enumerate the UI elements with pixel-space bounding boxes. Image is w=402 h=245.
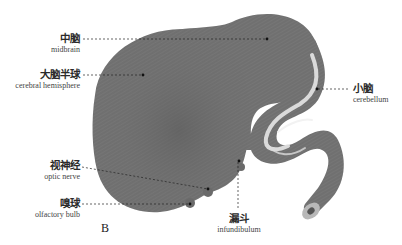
label-infundibulum-en: infundibulum <box>210 226 268 234</box>
label-olfactory-bulb: 嗅球 olfactory bulb <box>35 198 80 219</box>
label-optic-nerve-en: optic nerve <box>44 173 80 181</box>
label-midbrain: 中脑 midbrain <box>51 33 80 54</box>
embryonic-brain-diagram: 中脑 midbrain 大脑半球 cerebral hemisphere 小脑 … <box>0 0 402 245</box>
label-optic-nerve-zh: 视神经 <box>44 160 80 171</box>
label-cerebellum: 小脑 cerebellum <box>353 83 389 104</box>
panel-label: B <box>101 221 109 236</box>
label-cerebral-hemisphere-zh: 大脑半球 <box>15 69 80 80</box>
label-optic-nerve: 视神经 optic nerve <box>44 160 80 181</box>
label-infundibulum-zh: 漏斗 <box>210 213 268 224</box>
label-cerebellum-en: cerebellum <box>353 96 389 104</box>
label-midbrain-zh: 中脑 <box>51 33 80 44</box>
label-midbrain-en: midbrain <box>51 46 80 54</box>
label-cerebellum-zh: 小脑 <box>353 83 389 94</box>
label-olfactory-bulb-en: olfactory bulb <box>35 211 80 219</box>
label-olfactory-bulb-zh: 嗅球 <box>35 198 80 209</box>
label-cerebral-hemisphere-en: cerebral hemisphere <box>15 82 80 90</box>
label-cerebral-hemisphere: 大脑半球 cerebral hemisphere <box>15 69 80 90</box>
label-infundibulum: 漏斗 infundibulum <box>210 213 268 234</box>
